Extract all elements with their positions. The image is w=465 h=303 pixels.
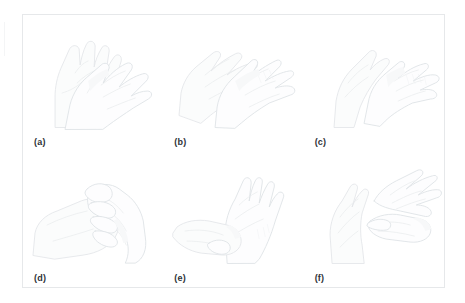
panel-label-a: (a) — [31, 137, 161, 149]
panel-f: (f) — [304, 151, 444, 287]
illustration-palm-to-palm — [31, 19, 161, 137]
illustration-thumb-rotation — [171, 155, 301, 273]
panel-label-f: (f) — [312, 273, 442, 285]
panel-label-c: (c) — [312, 137, 442, 149]
panel-d: (d) — [23, 151, 163, 287]
panel-e: (e) — [163, 151, 303, 287]
panel-label-e: (e) — [171, 273, 301, 285]
illustration-fingers-interlaced — [312, 19, 442, 137]
panel-label-d: (d) — [31, 273, 161, 285]
figure-root: (a) — [0, 0, 465, 303]
panel-c: (c) — [304, 15, 444, 151]
scan-edge-artifact — [4, 22, 5, 56]
panel-a: (a) — [23, 15, 163, 151]
figure-frame: (a) — [22, 14, 445, 288]
illustration-backs-of-fingers — [31, 155, 161, 273]
illustration-palm-over-dorsum — [171, 19, 301, 137]
panel-label-b: (b) — [171, 137, 301, 149]
illustration-fingertip-rotation — [312, 155, 442, 273]
panel-grid: (a) — [23, 15, 444, 287]
panel-b: (b) — [163, 15, 303, 151]
